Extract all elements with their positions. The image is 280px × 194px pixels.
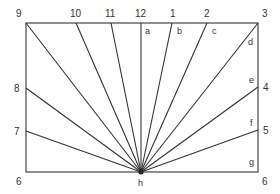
letter-a: a <box>145 26 150 36</box>
ray-4 <box>141 87 258 172</box>
label-6-left: 6 <box>16 176 22 187</box>
ray-11 <box>111 23 141 172</box>
label-11: 11 <box>105 8 116 19</box>
letter-f: f <box>250 118 253 128</box>
letter-d: d <box>248 37 253 47</box>
label-h: h <box>138 178 143 188</box>
letter-g: g <box>249 157 254 167</box>
label-5: 5 <box>263 125 269 136</box>
ray-7 <box>26 131 141 172</box>
label-6-right: 6 <box>262 176 268 187</box>
letter-c: c <box>212 26 217 36</box>
label-3: 3 <box>262 8 268 19</box>
ray-10 <box>76 23 141 172</box>
letter-b: b <box>177 26 182 36</box>
frame-rectangle <box>26 23 258 172</box>
letter-e: e <box>249 75 254 85</box>
sundial-diagram: 9 3 6 6 10 11 12 1 2 8 7 4 5 a b c d e f… <box>0 0 280 194</box>
label-2: 2 <box>204 8 210 19</box>
ray-9 <box>26 23 141 172</box>
label-8: 8 <box>14 83 20 94</box>
label-9: 9 <box>16 8 22 19</box>
ray-1 <box>141 23 172 172</box>
hub-point <box>139 170 144 175</box>
label-10: 10 <box>70 8 82 19</box>
label-7: 7 <box>14 126 20 137</box>
ray-2 <box>141 23 207 172</box>
label-1: 1 <box>170 8 176 19</box>
label-4: 4 <box>263 82 269 93</box>
ray-3 <box>141 23 258 172</box>
label-12: 12 <box>135 8 147 19</box>
ray-5 <box>141 130 258 172</box>
ray-8 <box>26 88 141 172</box>
